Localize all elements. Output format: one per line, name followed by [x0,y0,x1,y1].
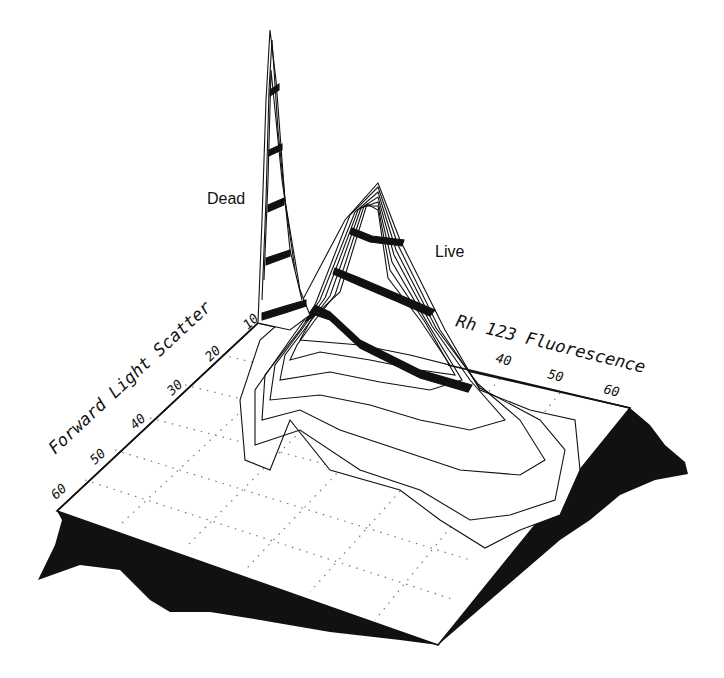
dead-peak [258,30,310,330]
dead-peak-label: Dead [207,190,245,208]
svg-text:50: 50 [546,366,565,384]
surface-plot: 10 20 30 40 50 60 Forward Light Scatter … [0,0,724,678]
live-peak-label: Live [435,243,464,261]
svg-text:60: 60 [602,381,621,399]
svg-text:40: 40 [494,350,513,368]
svg-text:60: 60 [48,480,70,502]
svg-text:50: 50 [87,445,109,467]
